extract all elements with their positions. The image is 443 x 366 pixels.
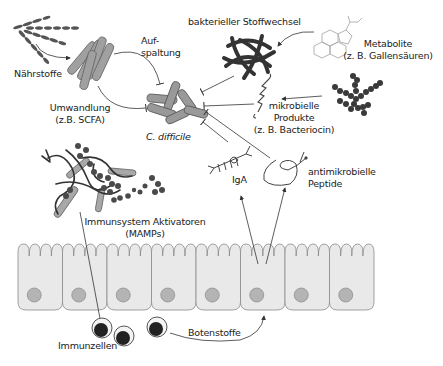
epithelial-cell [330, 244, 375, 310]
cell-nucleus [339, 288, 353, 302]
label-iga: IgA [232, 174, 247, 185]
epithelial-cell [63, 244, 108, 310]
arrow-bacteriocin [282, 96, 322, 99]
inhibit-bacteriocin [204, 104, 254, 106]
label-mikrobielle-3: (z. B. Bacteriocin) [252, 124, 336, 135]
inhibit-metabolism [202, 76, 234, 92]
cell-nucleus [161, 288, 175, 302]
c-difficile-bacteria-icon [146, 81, 208, 126]
mamps-tangle-icon [42, 143, 165, 219]
cell-nucleus [205, 288, 219, 302]
epithelial-cell [18, 244, 63, 310]
commensal-bacteria-icon [66, 36, 115, 90]
label-aufspaltung-1: Auf- [141, 35, 159, 46]
iga-antibody-icon [208, 146, 252, 174]
label-umwandlung-2: (z.B. SCFA) [48, 114, 112, 125]
label-metabolite-1: Metabolite [340, 38, 436, 49]
label-mikrobielle-2: Produkte [252, 112, 336, 123]
label-naehrstoffe: Nährstoffe [14, 68, 62, 79]
antimicrobial-peptide-icon [264, 152, 307, 185]
epithelial-cell [241, 244, 286, 310]
label-umwandlung-1: Umwandlung [48, 102, 112, 113]
bacteriocin-producer-icon [332, 73, 383, 116]
cell-nucleus [116, 288, 130, 302]
epithelial-cell [152, 244, 197, 310]
cell-nucleus [250, 288, 264, 302]
label-metabolite-2: (z. B. Gallensäuren) [340, 50, 436, 61]
bacterial-metabolism-icon [224, 36, 274, 78]
label-c-difficile: C. difficile [146, 131, 191, 142]
label-immunsystem-1: Immunsystem Aktivatoren [80, 216, 210, 227]
label-aufspaltung-2: spaltung [141, 47, 181, 58]
label-mikrobielle-1: mikrobielle [252, 100, 336, 111]
nutrient-chains-icon [13, 15, 79, 65]
label-botenstoffe: Botenstoffe [188, 327, 241, 338]
label-antimikrobielle-2: Peptide [308, 178, 342, 189]
label-antimikrobielle-1: antimikrobielle [308, 166, 376, 177]
epithelium-layer [18, 244, 374, 310]
epithelial-cell [285, 244, 330, 310]
label-immunsystem-2: (MAMPs) [80, 228, 210, 239]
cell-nucleus [72, 288, 86, 302]
label-immunzellen: Immunzellen [58, 340, 117, 351]
cell-nucleus [27, 288, 41, 302]
cell-nucleus [294, 288, 308, 302]
epithelial-cell [107, 244, 152, 310]
label-bakterieller-stoffwechsel: bakterieller Stoffwechsel [188, 16, 301, 27]
epithelial-cell [196, 244, 241, 310]
arrow-metabolite-to-metabolism [278, 32, 314, 46]
